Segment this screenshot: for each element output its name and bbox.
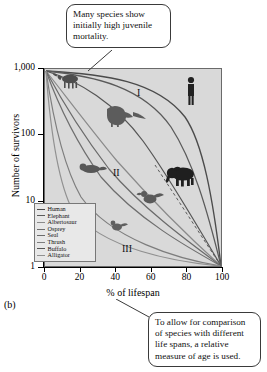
- callout-relative-age: To allow for comparison of species with …: [148, 312, 261, 367]
- callout-bottom-leader: [116, 299, 152, 319]
- legend-item-osprey: Osprey: [37, 226, 93, 233]
- legend-item-alligator: Alligator: [37, 252, 93, 259]
- panel-label: (b): [4, 299, 16, 310]
- silhouette-elephant: [166, 167, 194, 187]
- legend-item-albertosaur: Albertosaur: [37, 219, 93, 226]
- x-tick-label-0: 0: [29, 272, 59, 282]
- silhouette-human: [188, 77, 194, 105]
- legend-swatch-alligator: [37, 255, 45, 256]
- callout-top-leader: [80, 50, 120, 72]
- legend-swatch-buffalo: [37, 248, 45, 249]
- silhouette-buffalo: [53, 74, 78, 89]
- legend-swatch-albertosaur: [37, 222, 45, 223]
- y-tick-label-1: 1: [30, 261, 35, 271]
- y-axis-title: Number of survivors: [10, 86, 21, 226]
- callout-juvenile-mortality: Many species show initially high juvenil…: [66, 4, 171, 48]
- legend-label-alligator: Alligator: [48, 252, 70, 259]
- y-tick-10: [38, 201, 44, 202]
- legend-swatch-osprey: [37, 229, 45, 230]
- y-tick-label-1000: 1,000: [14, 62, 35, 72]
- silhouette-albertosaur: [107, 106, 146, 127]
- y-tick-1000: [38, 68, 44, 69]
- region-label-type-I: I: [137, 87, 140, 98]
- legend: Human Elephant Albertosaur Osprey Seal T…: [34, 203, 96, 262]
- x-tick-label-100: 100: [207, 272, 237, 282]
- figure-survivorship-curves: Many species show initially high juvenil…: [0, 0, 267, 372]
- region-label-type-III: III: [122, 243, 132, 254]
- y-tick-100: [38, 134, 44, 135]
- x-tick-label-60: 60: [136, 272, 166, 282]
- x-axis-line: [43, 267, 223, 268]
- y-tick-label-100: 100: [21, 128, 35, 138]
- legend-swatch-human: [37, 209, 45, 210]
- legend-swatch-elephant: [37, 215, 45, 216]
- legend-swatch-thrush: [37, 242, 45, 243]
- legend-swatch-seal: [37, 235, 45, 236]
- legend-item-seal: Seal: [37, 232, 93, 239]
- silhouette-thrush: [111, 221, 128, 231]
- region-label-type-II: II: [113, 167, 120, 178]
- x-tick-label-20: 20: [65, 272, 95, 282]
- x-tick-label-80: 80: [171, 272, 201, 282]
- x-axis-title: % of lifespan: [44, 287, 222, 298]
- x-tick-label-40: 40: [100, 272, 130, 282]
